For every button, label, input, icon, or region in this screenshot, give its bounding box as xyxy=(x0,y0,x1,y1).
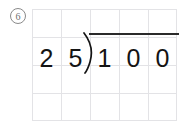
division-vinculum xyxy=(89,33,179,35)
worksheet-page: 6 2 5 1 0 0 xyxy=(0,0,188,131)
dividend-digit: 0 xyxy=(119,43,148,72)
problem-number-badge: 6 xyxy=(10,8,26,24)
long-division-problem: 2 5 1 0 0 xyxy=(32,9,177,121)
dividend-digit: 1 xyxy=(90,43,119,72)
dividend-digit: 0 xyxy=(148,43,177,72)
divisor-digit: 2 xyxy=(32,43,61,72)
